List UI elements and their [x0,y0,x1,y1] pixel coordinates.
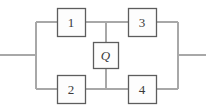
component-label-block-3: 3 [139,15,146,30]
component-block-q[interactable]: Q [94,43,119,69]
component-block-1[interactable]: 1 [58,9,86,37]
bridge-network-diagram: 13Q24 [0,0,206,112]
component-label-block-4: 4 [139,82,146,97]
component-block-4[interactable]: 4 [129,76,157,104]
diagram-svg-surface: 13Q24 [0,0,206,112]
component-label-block-1: 1 [68,15,75,30]
component-block-3[interactable]: 3 [129,9,157,37]
component-label-block-q: Q [101,48,111,63]
component-label-block-2: 2 [68,82,75,97]
component-block-2[interactable]: 2 [58,76,86,104]
